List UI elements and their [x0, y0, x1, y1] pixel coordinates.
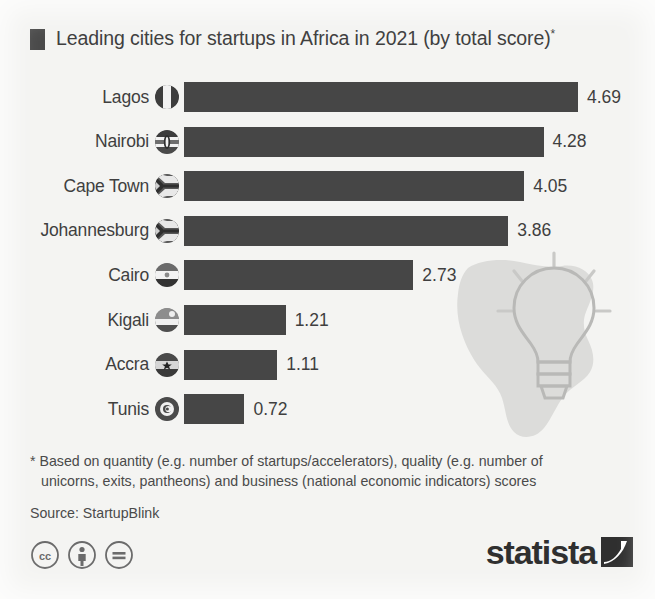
bar-row-city-label: Cape Town: [0, 176, 155, 197]
tunisia-flag-icon: [155, 397, 179, 421]
title-bullet-icon: [30, 29, 45, 50]
egypt-flag-icon: [155, 263, 179, 287]
bar: [184, 394, 244, 424]
bar: [184, 350, 277, 380]
page-title: Leading cities for startups in Africa in…: [56, 27, 555, 49]
bar: [184, 82, 578, 112]
cc-icon[interactable]: cc: [30, 540, 60, 570]
chart-title-text: Leading cities for startups in Africa in…: [56, 27, 551, 49]
bar-value-label: 0.72: [253, 399, 287, 420]
statista-wordmark: statista: [486, 535, 596, 569]
bar: [184, 171, 524, 201]
infographic-footer: cc statista: [0, 535, 655, 587]
rwanda-flag-icon: [155, 308, 179, 332]
bar: [184, 260, 413, 290]
bar-value-label: 4.05: [533, 176, 567, 197]
bar-row-city-label: Accra: [0, 354, 155, 375]
bar-row-city-label: Nairobi: [0, 131, 155, 152]
title-footnote-marker: *: [551, 27, 556, 41]
south-africa-flag-icon: [155, 174, 179, 198]
africa-lightbulb-illustration: [436, 246, 641, 446]
bar-row: Cape Town4.05: [0, 169, 655, 203]
nigeria-flag-icon: [155, 85, 179, 109]
south-africa-flag-icon: [155, 219, 179, 243]
bar-row-city-label: Kigali: [0, 310, 155, 331]
bar-value-label: 4.28: [553, 131, 587, 152]
statista-logo: statista: [486, 535, 633, 569]
chart-source: Source: StartupBlink: [30, 505, 159, 521]
bar-row: Lagos4.69: [0, 80, 655, 114]
bar: [184, 305, 286, 335]
bar-row-city-label: Lagos: [0, 87, 155, 108]
cc-nd-equals-icon[interactable]: [104, 540, 134, 570]
bar-value-label: 1.21: [295, 310, 329, 331]
footnote-line-1: * Based on quantity (e.g. number of star…: [30, 453, 543, 469]
chart-footnote: * Based on quantity (e.g. number of star…: [30, 452, 630, 491]
ghana-flag-icon: [155, 353, 179, 377]
creative-commons-license-group[interactable]: cc: [30, 540, 134, 570]
kenya-flag-icon: [155, 130, 179, 154]
bar-row-city-label: Johannesburg: [0, 220, 155, 241]
statista-infographic: Leading cities for startups in Africa in…: [0, 0, 655, 599]
statista-swoosh-icon: [601, 537, 633, 567]
bar-row-city-label: Tunis: [0, 399, 155, 420]
cc-by-person-icon[interactable]: [67, 540, 97, 570]
bar: [184, 127, 544, 157]
svg-text:cc: cc: [39, 550, 51, 562]
bar-value-label: 4.69: [587, 87, 621, 108]
bar-value-label: 3.86: [517, 220, 551, 241]
bar: [184, 216, 508, 246]
bar-row: Nairobi4.28: [0, 125, 655, 159]
bar-row-city-label: Cairo: [0, 265, 155, 286]
bar-row: Johannesburg3.86: [0, 214, 655, 248]
bar-value-label: 1.11: [286, 354, 319, 375]
chart-title-row: Leading cities for startups in Africa in…: [30, 27, 637, 50]
footnote-line-2: unicorns, exits, pantheons) and business…: [30, 472, 630, 492]
